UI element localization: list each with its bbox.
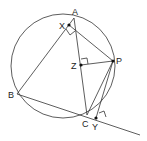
right-angle-mark-y <box>99 111 106 117</box>
point-x <box>67 23 70 26</box>
segment-pc <box>87 61 113 115</box>
label-z: Z <box>71 61 77 71</box>
label-a: A <box>72 7 78 17</box>
label-y: Y <box>92 122 98 132</box>
geometry-diagram: A X B C Y Z P <box>0 0 147 141</box>
right-angle-mark-z <box>81 58 88 64</box>
segment-py <box>96 61 113 118</box>
point-y <box>94 116 97 119</box>
label-p: P <box>116 56 122 66</box>
segment-px <box>69 25 113 61</box>
label-c: C <box>82 119 89 129</box>
right-angle-mark-x <box>66 29 75 35</box>
label-x: X <box>59 21 65 31</box>
point-z <box>79 63 82 66</box>
segment-pz <box>81 61 113 65</box>
label-b: B <box>8 90 14 100</box>
point-p <box>111 59 114 62</box>
line-bc-extended <box>17 94 140 135</box>
